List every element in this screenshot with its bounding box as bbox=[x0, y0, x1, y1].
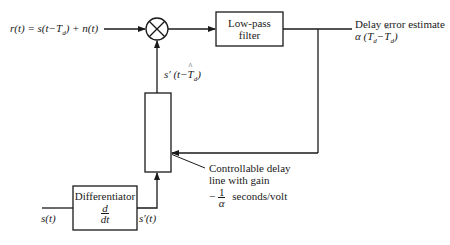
derivative-signal-label: s′(t) bbox=[139, 212, 156, 224]
delay-line-gain: − 1α seconds/volt bbox=[209, 187, 291, 208]
differentiator-title: Differentiator bbox=[73, 190, 137, 202]
derivative-denominator: dt bbox=[101, 214, 110, 224]
input-label-lhs: r(t) = s(t−T bbox=[10, 22, 62, 34]
lowpass-filter-line2: filter bbox=[216, 29, 283, 41]
delayed-derivative-hat-t: T bbox=[188, 68, 194, 80]
output-expr-hat-t: T bbox=[384, 30, 390, 42]
gain-sign: − bbox=[209, 190, 215, 202]
output-expression: α (Td−Td) bbox=[355, 30, 445, 47]
delayed-derivative-suffix: ) bbox=[197, 68, 201, 80]
differentiator-label: Differentiator ddt bbox=[73, 190, 137, 224]
input-signal-label: r(t) = s(t−Td) + n(t) bbox=[10, 22, 98, 39]
output-line1: Delay error estimate bbox=[355, 18, 445, 30]
output-expr-suffix: ) bbox=[394, 30, 398, 42]
output-expr-prefix: α (T bbox=[355, 30, 373, 42]
delayed-derivative-prefix: s′ (t− bbox=[164, 68, 188, 80]
lowpass-filter-line1: Low-pass bbox=[216, 17, 283, 29]
delay-error-estimate-label: Delay error estimate α (Td−Td) bbox=[355, 18, 445, 47]
delay-line-annotation-line2: line with gain bbox=[209, 174, 291, 186]
input-label-rhs: ) + n(t) bbox=[66, 22, 98, 34]
output-expr-mid: − bbox=[377, 30, 384, 42]
derivative-operator: ddt bbox=[101, 203, 110, 224]
lowpass-filter-label: Low-pass filter bbox=[216, 17, 283, 41]
derivative-signal-line bbox=[137, 173, 157, 208]
delayed-derivative-label: s′ (t−Td) bbox=[164, 68, 201, 85]
delay-annotation-pointer bbox=[172, 155, 205, 169]
source-signal-label: s(t) bbox=[41, 212, 56, 224]
gain-fraction: 1α bbox=[218, 187, 226, 208]
delay-line-annotation-line1: Controllable delay bbox=[209, 162, 291, 174]
gain-denominator: α bbox=[219, 198, 225, 208]
gain-units: seconds/volt bbox=[232, 190, 287, 202]
delay-line-annotation: Controllable delay line with gain − 1α s… bbox=[209, 162, 291, 208]
delay-line-block bbox=[145, 93, 171, 172]
